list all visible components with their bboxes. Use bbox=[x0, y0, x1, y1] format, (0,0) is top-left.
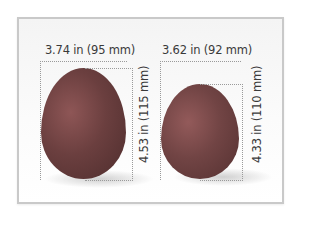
egg-1-height-label: 4.53 in (115 mm) bbox=[137, 66, 151, 163]
egg-2-height-guide bbox=[200, 84, 243, 181]
egg-2-height-label: 4.33 in (110 mm) bbox=[250, 66, 264, 163]
egg-1-height-guide bbox=[85, 68, 133, 181]
egg-2-width-label: 3.62 in (92 mm) bbox=[162, 43, 252, 57]
egg-1-width-label: 3.74 in (95 mm) bbox=[45, 43, 135, 57]
